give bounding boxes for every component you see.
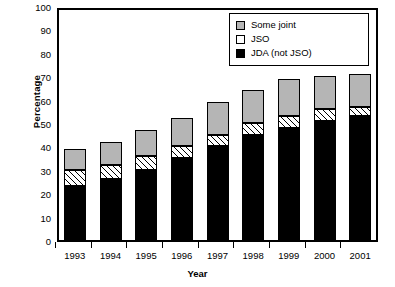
x-tick-mark <box>162 242 163 248</box>
x-tick-mark <box>55 242 56 248</box>
x-tick-label: 1997 <box>198 250 238 261</box>
y-tick-label: 20 <box>25 190 51 200</box>
bar-segment-jda-not-jso-1996 <box>171 158 193 240</box>
bar-segment-jda-not-jso-1994 <box>100 179 122 240</box>
y-tick-label: 40 <box>25 143 51 153</box>
legend-item-jso: JSO <box>236 32 362 46</box>
x-axis-title: Year <box>0 268 395 279</box>
bar-1995 <box>135 130 157 240</box>
bar-1999 <box>278 79 300 240</box>
x-tick-mark <box>91 242 92 248</box>
y-tick-label: 10 <box>25 214 51 224</box>
bar-segment-jso-1993 <box>64 170 86 186</box>
bar-2001 <box>349 74 371 240</box>
chart-legend: Some joint JSO JDA (not JSO) <box>229 13 369 66</box>
y-tick-label: 50 <box>25 120 51 130</box>
y-tick-label: 30 <box>25 167 51 177</box>
black-swatch-icon <box>236 49 245 58</box>
bar-segment-some-joint-1999 <box>278 79 300 116</box>
bar-segment-jda-not-jso-1993 <box>64 186 86 240</box>
bar-segment-some-joint-1997 <box>207 102 229 135</box>
bar-1997 <box>207 102 229 240</box>
x-tick-label: 1996 <box>162 250 202 261</box>
bar-segment-some-joint-1996 <box>171 118 193 146</box>
bar-segment-jda-not-jso-1995 <box>135 170 157 240</box>
stacked-bar-chart: Percentage 1009080706050403020100 199319… <box>0 0 395 287</box>
y-tick-label: 90 <box>25 26 51 36</box>
bar-1993 <box>64 149 86 240</box>
bar-segment-jso-2000 <box>314 109 336 121</box>
y-tick-label: 80 <box>25 50 51 60</box>
bar-segment-jso-1995 <box>135 156 157 170</box>
bar-segment-jda-not-jso-2001 <box>349 116 371 240</box>
bar-segment-some-joint-2000 <box>314 76 336 109</box>
bar-1994 <box>100 142 122 240</box>
legend-label-jda: JDA (not JSO) <box>251 47 312 59</box>
bar-2000 <box>314 76 336 240</box>
white-swatch-icon <box>236 35 245 44</box>
x-tick-label: 1994 <box>91 250 131 261</box>
y-tick-label: 100 <box>25 3 51 13</box>
bar-1998 <box>242 90 264 240</box>
y-tick-label: 60 <box>25 97 51 107</box>
x-tick-mark <box>126 242 127 248</box>
x-tick-label: 1998 <box>233 250 273 261</box>
x-tick-label: 1993 <box>55 250 95 261</box>
x-tick-mark <box>305 242 306 248</box>
legend-item-some-joint: Some joint <box>236 18 362 32</box>
x-tick-mark <box>198 242 199 248</box>
bar-segment-jso-1996 <box>171 146 193 158</box>
bar-segment-jda-not-jso-1997 <box>207 146 229 240</box>
bar-segment-some-joint-1993 <box>64 149 86 170</box>
x-tick-label: 1999 <box>269 250 309 261</box>
x-tick-mark <box>340 242 341 248</box>
legend-label-jso: JSO <box>251 33 269 45</box>
bar-segment-jda-not-jso-1998 <box>242 135 264 240</box>
x-tick-label: 2001 <box>340 250 380 261</box>
legend-label-some-joint: Some joint <box>251 19 296 31</box>
y-tick-label: 0 <box>25 237 51 247</box>
bar-segment-jda-not-jso-2000 <box>314 121 336 240</box>
x-tick-mark <box>233 242 234 248</box>
gray-swatch-icon <box>236 21 245 30</box>
bar-segment-jso-1998 <box>242 123 264 135</box>
legend-item-jda: JDA (not JSO) <box>236 46 362 60</box>
bar-segment-jda-not-jso-1999 <box>278 128 300 240</box>
bar-segment-jso-1999 <box>278 116 300 128</box>
bar-segment-some-joint-1998 <box>242 90 264 123</box>
bar-segment-some-joint-1995 <box>135 130 157 156</box>
x-tick-label: 1995 <box>126 250 166 261</box>
bar-segment-jso-2001 <box>349 107 371 116</box>
x-tick-label: 2000 <box>305 250 345 261</box>
bar-segment-jso-1997 <box>207 135 229 147</box>
bar-segment-jso-1994 <box>100 165 122 179</box>
x-tick-mark <box>269 242 270 248</box>
bar-segment-some-joint-2001 <box>349 74 371 107</box>
bar-segment-some-joint-1994 <box>100 142 122 165</box>
bar-1996 <box>171 118 193 240</box>
y-tick-label: 70 <box>25 73 51 83</box>
